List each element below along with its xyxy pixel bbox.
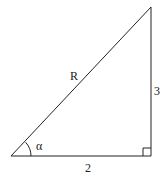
angle-label: α [36, 139, 43, 153]
hypotenuse-label: R [70, 69, 78, 83]
right-triangle [11, 7, 151, 156]
right-angle-marker [143, 148, 151, 156]
horizontal-leg-label: 2 [85, 161, 91, 175]
vertical-leg-label: 3 [154, 84, 160, 98]
triangle-diagram: R 3 α 2 [0, 0, 167, 178]
angle-arc [26, 142, 31, 156]
